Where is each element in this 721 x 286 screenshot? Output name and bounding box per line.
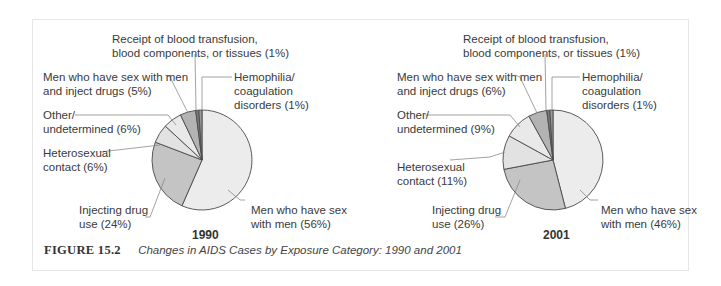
figure-number: FIGURE 15.2 <box>44 243 121 257</box>
figure-title: Changes in AIDS Cases by Exposure Catego… <box>138 244 462 256</box>
label-1990-msm-idu: Men who have sex with men and inject dru… <box>43 70 188 98</box>
label-2001-transfusion: Receipt of blood transfusion, blood comp… <box>463 32 640 60</box>
figure-caption: FIGURE 15.2 Changes in AIDS Cases by Exp… <box>44 243 462 258</box>
label-2001-idu: Injecting drug use (26%) <box>432 203 501 231</box>
label-1990-msm: Men who have sex with men (56%) <box>251 203 347 231</box>
pie-chart-1990 <box>152 110 252 210</box>
label-2001-hemophilia: Hemophilia/ coagulation disorders (1%) <box>582 70 657 112</box>
label-2001-other: Other/ undetermined (9%) <box>397 108 495 136</box>
label-2001-msm-idu: Men who have sex with men and inject dru… <box>397 70 542 98</box>
label-1990-transfusion: Receipt of blood transfusion, blood comp… <box>112 32 289 60</box>
year-label-1990: 1990 <box>192 228 219 242</box>
label-1990-heterosexual: Heterosexual contact (6%) <box>43 146 111 174</box>
label-1990-hemophilia: Hemophilia/ coagulation disorders (1%) <box>234 70 309 112</box>
year-label-2001: 2001 <box>543 228 570 242</box>
label-1990-idu: Injecting drug use (24%) <box>79 203 148 231</box>
label-2001-msm: Men who have sex with men (46%) <box>601 203 697 231</box>
label-2001-heterosexual: Heterosexual contact (11%) <box>397 160 467 188</box>
label-1990-other: Other/ undetermined (6%) <box>43 108 141 136</box>
